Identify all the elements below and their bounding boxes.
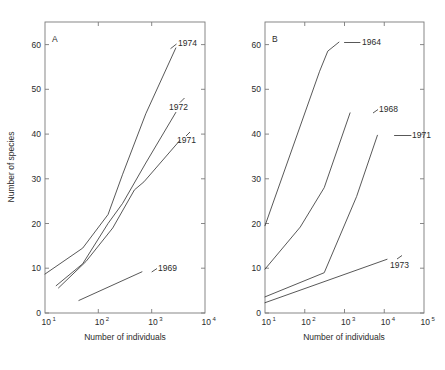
y-tick-label: 50	[252, 84, 262, 94]
panel-letter-b: B	[272, 34, 278, 44]
y-tick-label: 20	[252, 219, 262, 229]
x-tick-exponent: 4	[392, 316, 396, 322]
x-tick-exponent: 5	[432, 316, 436, 322]
y-tick-label: 30	[252, 174, 262, 184]
x-tick-exponent: 1	[273, 316, 277, 322]
x-tick-label: 10	[421, 317, 431, 327]
x-tick-label: 10	[381, 317, 391, 327]
series-line-1971-b	[265, 135, 377, 297]
y-tick-label: 60	[252, 40, 262, 50]
x-tick-exponent: 2	[312, 316, 316, 322]
y-axis-ticks-b	[265, 45, 424, 313]
y-axis-tick-labels-b: 0 10 20 30 40 50 60	[252, 40, 262, 318]
series-label-1968-b: 1968	[379, 104, 398, 114]
series-line-1968-b	[265, 113, 350, 269]
panel-b: 0 10 20 30 40 50 60 10 1 10 2 10 3 10 4	[0, 0, 445, 370]
y-tick-label: 40	[252, 129, 262, 139]
series-line-1973-b	[265, 259, 387, 302]
series-label-1964-b: 1964	[362, 37, 381, 47]
figure-root: 0 10 20 30 40 50 60 10 1 10 2 10 3 10 4 …	[0, 0, 445, 370]
x-tick-label: 10	[301, 317, 311, 327]
x-tick-label: 10	[262, 317, 272, 327]
series-label-1971-b: 1971	[412, 130, 431, 140]
series-line-1964-b	[265, 42, 339, 226]
x-axis-title-b: Number of individuals	[303, 332, 385, 342]
series-label-1973-b: 1973	[390, 260, 409, 270]
y-tick-label: 10	[252, 263, 262, 273]
leader-line-1968-b	[373, 110, 378, 114]
x-tick-label: 10	[341, 317, 351, 327]
x-tick-exponent: 3	[352, 316, 356, 322]
leader-line-1973-b	[397, 256, 402, 260]
x-axis-ticks-b	[305, 22, 385, 313]
x-axis-tick-labels-b: 10 1 10 2 10 3 10 4 10 5	[262, 316, 436, 328]
